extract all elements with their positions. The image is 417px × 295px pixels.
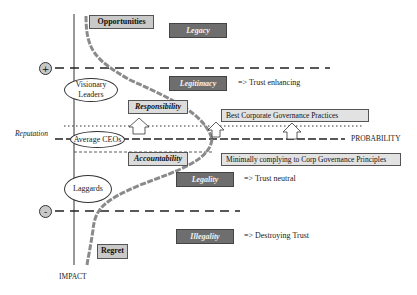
probability-axis-label: PROBABILITY xyxy=(351,134,401,143)
diagram-canvas xyxy=(0,0,417,295)
opportunities-box: Opportunities xyxy=(89,15,154,29)
legitimacy-box: Legitimacy xyxy=(169,76,227,91)
plus-sign-icon: + xyxy=(39,62,52,75)
legality-box: Legality xyxy=(176,172,234,187)
reputation-label: Reputation xyxy=(15,129,48,138)
minus-sign-icon: - xyxy=(39,205,52,218)
minimal-compliance-box: Minimally complying to Corp Governance P… xyxy=(221,153,401,166)
destroying-trust-note: => Destroying Trust xyxy=(244,231,309,240)
trust-neutral-note: => Trust neutral xyxy=(244,174,296,183)
trust-enhancing-note: => Trust enhancing xyxy=(238,78,300,87)
average-ceos-ellipse: Average CEOs xyxy=(70,131,125,148)
accountability-box: Accountability xyxy=(128,152,188,166)
best-practices-box: Best Corporate Governance Practices xyxy=(221,109,369,122)
laggards-ellipse: Laggards xyxy=(64,175,112,203)
visionary-leaders-ellipse: Visionary Leaders xyxy=(64,78,118,102)
impact-axis-label: IMPACT xyxy=(59,272,87,281)
regret-box: Regret xyxy=(97,244,128,259)
legacy-box: Legacy xyxy=(169,23,227,38)
responsibility-box: Responsibility xyxy=(128,100,188,114)
illegality-box: Illegality xyxy=(176,229,234,244)
up-arrow-icon xyxy=(129,118,149,134)
up-arrow-icon xyxy=(283,123,301,139)
